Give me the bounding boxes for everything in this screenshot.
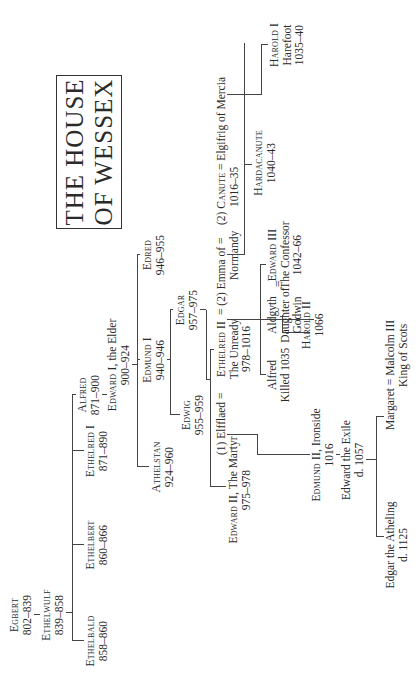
spouse-emma-of-normandy: = (2) Emma of = xyxy=(215,238,228,315)
person-egbert: Egbert 802–839 xyxy=(8,595,33,635)
title-line-2: OF WESSEX xyxy=(89,79,118,226)
canute-dates: 1016–35 xyxy=(228,167,241,207)
person-edgar-the-atheling: Edgar the Atheling d. 1125 xyxy=(384,502,409,589)
line-exile-children xyxy=(376,417,377,537)
line-to-edgar-atheling xyxy=(376,536,384,537)
line-to-athelstan xyxy=(137,466,149,467)
line-exile-down xyxy=(366,459,376,460)
person-harold-i: Harold I Harefoot 1035–40 xyxy=(268,23,306,67)
spouse-elgifrig-of-mercia: = Elgifrig of Mercia xyxy=(215,77,228,170)
person-edmund-ii: Edmund II, Ironside 1016 xyxy=(310,408,335,501)
wessex-family-tree: THE HOUSE OF WESSEX Egbert 802–839 Ethel… xyxy=(0,0,418,685)
line-to-ethelbert xyxy=(72,544,84,545)
line-edmund1-children xyxy=(170,310,171,415)
person-harold-ii: Harold II 1066 xyxy=(300,301,325,349)
line-canute-children-top xyxy=(244,43,245,255)
person-edward-iii: Edward III The Confessor 1042–66 xyxy=(266,221,304,288)
person-canute: (2) Canute xyxy=(215,173,228,225)
person-edward-ii: Edward II, The Martyr 975–978 xyxy=(227,436,252,543)
line-emma-children xyxy=(260,265,261,375)
line-to-margaret xyxy=(376,416,384,417)
line-edmund2-join xyxy=(257,435,258,455)
line-to-edward2 xyxy=(210,486,226,487)
person-edmund-i: Edmund I 940–946 xyxy=(141,337,166,383)
line-elfflaed-down xyxy=(227,434,257,435)
person-ethelbald: Ethelbald 858–860 xyxy=(84,615,109,666)
line-to-edmund2 xyxy=(257,454,310,455)
spouse-emma-line2: Normandy xyxy=(228,231,241,280)
line-elgifrig-children xyxy=(261,45,262,95)
person-edgar: Edgar 957–975 xyxy=(174,290,199,330)
person-edred: Edred 946–955 xyxy=(141,235,166,275)
person-alfred-killed: Alfred Killed 1035 xyxy=(266,348,291,403)
person-edward-the-exile: Edward the Exile d. 1057 xyxy=(340,420,365,500)
person-edward-i: Edward I, the Elder 900–924 xyxy=(106,319,131,411)
line-edgar-children-top xyxy=(206,310,207,380)
person-ethelred-ii: Ethelred II The Unready 978–1016 xyxy=(215,319,253,379)
person-ethelwulf: Ethelwulf 839–858 xyxy=(40,589,65,640)
line-ethelred2-stub xyxy=(242,364,243,365)
line-to-edwig xyxy=(170,414,180,415)
person-hardacanute: Hardacanute 1040–43 xyxy=(252,130,277,196)
person-athelstan: Athelstan 924–960 xyxy=(150,442,175,493)
line-ethelwulf-children xyxy=(72,395,73,641)
line-elgifrig-down xyxy=(227,94,261,95)
malcolm-title: King of Scots xyxy=(397,324,410,387)
line-emma-canute-down xyxy=(227,254,244,255)
line-to-ethelred2 xyxy=(210,349,214,350)
line-to-ethelbald xyxy=(72,640,84,641)
person-ethelred-i: Ethelred I 871–890 xyxy=(84,425,109,477)
line-to-edgar xyxy=(170,309,173,310)
person-alfred: Alfred 871–900 xyxy=(76,375,101,415)
line-edward1-children xyxy=(137,255,138,467)
person-aldgyth: Aldgyth Daughter of Godwin xyxy=(266,287,304,342)
person-margaret: Margaret = Malcolm III xyxy=(384,320,397,430)
line-to-ethelred1 xyxy=(72,450,84,451)
title-box: THE HOUSE OF WESSEX xyxy=(56,75,122,229)
title-line-1: THE HOUSE xyxy=(60,78,89,225)
line-to-harold1 xyxy=(261,44,268,45)
line-edgar-children xyxy=(210,350,211,487)
line-to-edred xyxy=(137,254,140,255)
spouse-elfflaed: (1) Elfflaed = xyxy=(215,393,228,455)
line-to-edmund1 xyxy=(137,359,140,360)
person-edwig: Edwig 955–959 xyxy=(180,395,205,435)
line-to-hardacanute xyxy=(244,164,252,165)
person-ethelbert: Ethelbert 860–866 xyxy=(84,520,109,569)
